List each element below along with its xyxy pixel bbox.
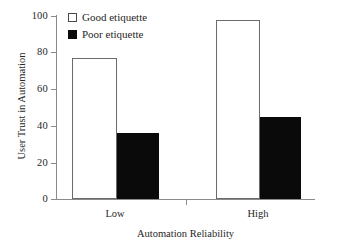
legend-item-good-etiquette: Good etiquette bbox=[68, 10, 147, 24]
y-axis-label-40: 40 bbox=[8, 121, 48, 131]
x-axis-tick-center bbox=[186, 200, 187, 205]
y-axis-title: User Trust in Automation bbox=[16, 16, 28, 196]
y-axis-tick-80 bbox=[51, 52, 56, 53]
x-axis-label-high: High bbox=[223, 208, 293, 220]
y-axis-tick-100 bbox=[51, 16, 56, 17]
y-axis-label-80: 80 bbox=[8, 47, 48, 57]
open-square-swatch-icon bbox=[68, 13, 77, 22]
y-axis-label-20: 20 bbox=[8, 158, 48, 168]
bar-low-good-etiquette bbox=[72, 58, 117, 199]
x-axis-label-low: Low bbox=[80, 208, 150, 220]
legend-label-poor-etiquette: Poor etiquette bbox=[82, 28, 143, 40]
y-axis-tick-60 bbox=[51, 89, 56, 90]
y-axis-label-60: 60 bbox=[8, 84, 48, 94]
bar-high-poor-etiquette bbox=[260, 117, 301, 199]
chart-legend: Good etiquette Poor etiquette bbox=[68, 10, 147, 41]
legend-label-good-etiquette: Good etiquette bbox=[82, 11, 147, 23]
y-axis-label-100: 100 bbox=[8, 11, 48, 21]
y-axis-tick-40 bbox=[51, 126, 56, 127]
filled-square-swatch-icon bbox=[68, 30, 77, 39]
x-axis-title: Automation Reliability bbox=[57, 228, 314, 240]
y-axis-tick-20 bbox=[51, 163, 56, 164]
legend-item-poor-etiquette: Poor etiquette bbox=[68, 27, 147, 41]
bar-high-good-etiquette bbox=[216, 20, 260, 199]
plot-area bbox=[57, 16, 314, 199]
y-axis-label-0: 0 bbox=[8, 194, 48, 204]
bar-low-poor-etiquette bbox=[117, 133, 159, 199]
bar-chart-figure: 100 80 60 40 20 0 User Trust in Automati… bbox=[0, 0, 344, 250]
